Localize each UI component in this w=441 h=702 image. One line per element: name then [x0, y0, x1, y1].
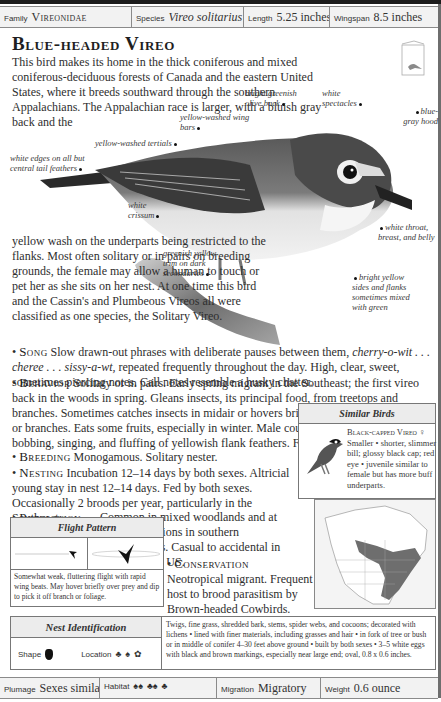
label-throat: white throat, breast, and belly — [378, 222, 441, 242]
length-label: Length — [248, 14, 272, 23]
label-tertials: yellow-washed tertials — [95, 138, 235, 148]
nest-shape-label: Shape — [18, 650, 41, 659]
label-back: bright greenish olive back — [245, 88, 315, 108]
flight-pattern-heading: Flight Pattern — [11, 518, 163, 538]
nest-identification-panel: Nest Identification Shape Location ♣ ♠ ✿… — [10, 616, 436, 670]
conservation-section: • Conservation Neotropical migrant. Freq… — [167, 556, 317, 617]
black-capped-vireo-image — [303, 430, 345, 480]
label-flanks: bright yellow sides and flanks sometimes… — [352, 272, 422, 312]
wingspan-cell: Wingspan 8.5 inches — [330, 7, 438, 27]
flight-pattern-panel: Flight Pattern Somewhat weak, fluttering… — [10, 517, 164, 607]
top-rule — [0, 0, 441, 4]
label-crissum: white crissum — [128, 200, 168, 220]
conservation-heading: Conservation — [174, 556, 249, 571]
weight-label: Weight — [325, 685, 350, 694]
label-tail: white edges on all but central tail feat… — [10, 153, 100, 173]
family-label: Family — [4, 14, 28, 23]
field-guide-page: Family Vireonidae Species Vireo solitari… — [0, 0, 441, 702]
migration-cell: Migration Migratory — [217, 678, 321, 698]
species-cell: Species Vireo solitarius — [132, 7, 244, 27]
intro-paragraph-continued: yellow wash on the underparts being rest… — [12, 234, 272, 324]
similar-birds-heading: Similar Birds — [299, 404, 435, 424]
weight-value: 0.6 ounce — [354, 681, 401, 696]
similar-birds-panel: Similar Birds Black-capped Vireo ♀ Small… — [298, 403, 436, 499]
nest-location-label: Location — [81, 650, 111, 659]
habitat-label: Habitat — [104, 682, 129, 691]
flight-pattern-hover — [88, 538, 164, 569]
breeding-section: • Breeding Monogamous. Solitary nester. — [12, 449, 302, 465]
plumage-label: Plumage — [4, 685, 36, 694]
species-value: Vireo solitarius — [168, 10, 242, 25]
label-hood: blue-gray hood — [398, 106, 438, 126]
deciduous-tree-icon: ✿ — [134, 649, 142, 659]
flight-pattern-straight — [11, 538, 88, 569]
shrub-icon: ♣ — [115, 649, 121, 659]
nesting-heading: Nesting — [19, 465, 63, 480]
taxonomy-bar: Family Vireonidae Species Vireo solitari… — [0, 6, 438, 28]
wingspan-value: 8.5 inches — [374, 10, 423, 25]
migration-label: Migration — [221, 685, 254, 694]
range-map — [314, 499, 436, 609]
nest-description: Twigs, fine grass, shredded bark, stems,… — [162, 617, 435, 669]
habitat-cell: Habitat ♠♠ ♣♠ ♣ — [100, 678, 217, 698]
flight-pattern-description: Somewhat weak, fluttering flight with ra… — [11, 570, 163, 604]
mixed-forest-icon: ♣♠ — [147, 681, 158, 691]
weight-cell: Weight 0.6 ounce — [321, 678, 438, 698]
nest-identification-heading: Nest Identification — [11, 617, 161, 638]
plumage-cell: Plumage Sexes similar — [0, 678, 100, 698]
conifer-icon: ♠ — [125, 649, 130, 659]
family-cell: Family Vireonidae — [0, 7, 132, 27]
book-bird-icon — [400, 40, 426, 76]
length-value: 5.25 inches — [276, 10, 330, 25]
label-wing-bars: yellow-washed wing bars — [180, 112, 250, 132]
attributes-bar: Plumage Sexes similar Habitat ♠♠ ♣♠ ♣ Mi… — [0, 677, 438, 699]
family-value: Vireonidae — [32, 10, 87, 25]
breeding-heading: Breeding — [19, 449, 70, 464]
cup-nest-icon — [45, 649, 53, 660]
behavior-heading: Behavior — [19, 375, 70, 390]
label-spectacles: white spectacles — [322, 88, 372, 108]
forest-edge-icon: ♣ — [162, 681, 168, 691]
migration-value: Migratory — [258, 681, 307, 696]
similar-bird-description: Black-capped Vireo ♀ Smaller • shorter, … — [347, 427, 437, 490]
wingspan-label: Wingspan — [334, 14, 370, 23]
plumage-value: Sexes similar — [40, 681, 100, 696]
coniferous-forest-icon: ♠♠ — [133, 681, 143, 691]
species-label: Species — [136, 14, 164, 23]
page-title: Blue-headed Vireo — [12, 33, 175, 55]
length-cell: Length 5.25 inches — [244, 7, 330, 27]
song-heading: Song — [19, 344, 47, 359]
